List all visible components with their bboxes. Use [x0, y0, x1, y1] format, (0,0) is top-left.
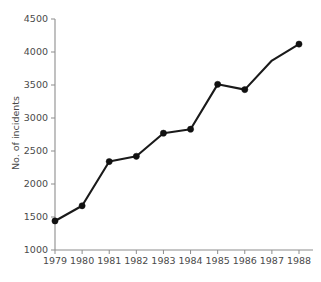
x-tick-marks — [55, 250, 299, 254]
x-tick-label: 1988 — [287, 255, 311, 266]
line-chart: 10001500200025003000350040004500 1979198… — [0, 0, 321, 282]
x-tick-label: 1987 — [260, 255, 284, 266]
y-tick-label: 2000 — [24, 178, 48, 189]
y-tick-label: 4500 — [24, 13, 48, 24]
y-tick-label: 3000 — [24, 112, 48, 123]
y-axis-title: No. of incidents — [10, 96, 21, 170]
x-tick-labels: 1979198019811982198319841985198619871988 — [43, 255, 311, 266]
data-point — [160, 130, 166, 136]
y-tick-label: 2500 — [24, 145, 48, 156]
y-tick-label: 1000 — [24, 244, 48, 255]
series-line — [55, 44, 299, 221]
x-tick-label: 1983 — [151, 255, 175, 266]
x-tick-label: 1979 — [43, 255, 67, 266]
x-tick-label: 1984 — [178, 255, 202, 266]
y-tick-label: 3500 — [24, 79, 48, 90]
y-tick-label: 1500 — [24, 211, 48, 222]
data-point — [242, 87, 248, 93]
data-point — [215, 81, 221, 87]
y-tick-marks — [51, 19, 55, 250]
data-point — [187, 126, 193, 132]
data-point — [296, 41, 302, 47]
y-axis: 10001500200025003000350040004500 — [24, 13, 55, 255]
data-series-no-of-incidents — [52, 41, 302, 224]
data-point — [79, 203, 85, 209]
y-tick-label: 4000 — [24, 46, 48, 57]
chart-canvas: 10001500200025003000350040004500 1979198… — [0, 0, 321, 282]
data-point — [52, 218, 58, 224]
x-tick-label: 1985 — [206, 255, 230, 266]
x-tick-label: 1986 — [233, 255, 257, 266]
data-point — [106, 158, 112, 164]
y-tick-labels: 10001500200025003000350040004500 — [24, 13, 48, 255]
data-point — [133, 153, 139, 159]
x-axis: 1979198019811982198319841985198619871988 — [43, 250, 313, 266]
x-tick-label: 1982 — [124, 255, 148, 266]
x-tick-label: 1981 — [97, 255, 121, 266]
x-tick-label: 1980 — [70, 255, 94, 266]
